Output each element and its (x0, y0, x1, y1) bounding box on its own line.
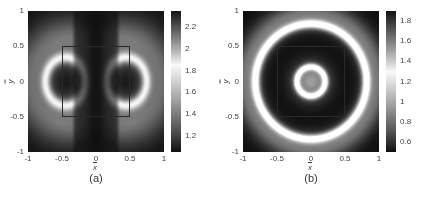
heatmap-canvas-b (243, 11, 379, 152)
panel-b: 1 0.5 0 -0.5 -1 -1 -0.5 0 0.5 1 x y 0.60… (211, 0, 422, 200)
colorbar-b (386, 11, 396, 152)
colorbar-tick-label: 1.6 (400, 37, 411, 45)
colorbar-tick-label: 2 (185, 45, 189, 53)
panel-a: 1 0.5 0 -0.5 -1 -1 -0.5 0 0.5 1 x y 1.21… (0, 0, 211, 200)
x-axis-label: x (308, 163, 312, 172)
y-axis-label: y (221, 80, 230, 84)
ytick-label: -0.5 (6, 113, 24, 121)
heatmap-canvas-a (28, 11, 164, 152)
panel-caption-a: (a) (81, 172, 111, 184)
colorbar-a (171, 11, 181, 152)
colorbar-tick-label: 1.8 (400, 17, 411, 25)
colorbar-canvas-b (386, 11, 396, 152)
xtick-label: 1 (154, 155, 174, 163)
xtick-label: 0.5 (120, 155, 140, 163)
heatmap-plot-b (243, 11, 379, 152)
xtick-label: 0.5 (335, 155, 355, 163)
xtick-label: -1 (18, 155, 38, 163)
colorbar-tick-label: 2.2 (185, 23, 196, 31)
colorbar-tick-label: 1 (400, 98, 404, 106)
heatmap-plot-a (28, 11, 164, 152)
xtick-label: 0 (301, 155, 321, 163)
colorbar-tick-label: 1.2 (400, 78, 411, 86)
xtick-label: -0.5 (52, 155, 72, 163)
ytick-label: 1 (6, 7, 24, 15)
colorbar-tick-label: 1.4 (185, 110, 196, 118)
xtick-label: -0.5 (267, 155, 287, 163)
colorbar-tick-label: 0.6 (400, 138, 411, 146)
colorbar-tick-label: 1.2 (185, 132, 196, 140)
ytick-label: -0.5 (221, 113, 239, 121)
panel-caption-b: (b) (296, 172, 326, 184)
ytick-label: 0.5 (6, 42, 24, 50)
xtick-label: -1 (233, 155, 253, 163)
colorbar-tick-label: 0.8 (400, 118, 411, 126)
xtick-label: 0 (86, 155, 106, 163)
y-axis-label: y (6, 80, 15, 84)
xtick-label: 1 (369, 155, 389, 163)
colorbar-tick-label: 1.6 (185, 88, 196, 96)
colorbar-tick-label: 1.8 (185, 67, 196, 75)
colorbar-canvas-a (171, 11, 181, 152)
ytick-label: 1 (221, 7, 239, 15)
colorbar-tick-label: 1.4 (400, 57, 411, 65)
ytick-label: 0.5 (221, 42, 239, 50)
x-axis-label: x (93, 163, 97, 172)
